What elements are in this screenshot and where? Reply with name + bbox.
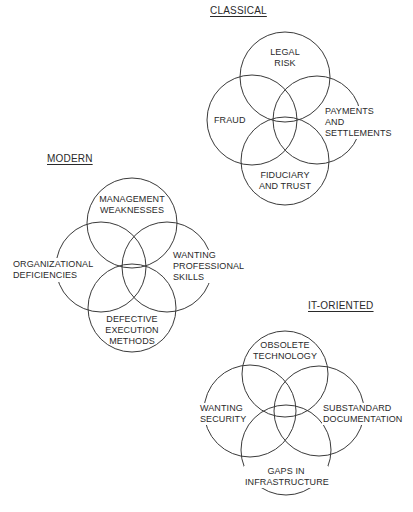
label-line: EXECUTION — [101, 325, 163, 336]
label-line: SUBSTANDARD — [323, 403, 402, 414]
label-management-weaknesses: MANAGEMENT WEAKNESSES — [97, 194, 167, 216]
label-line: METHODS — [101, 336, 163, 347]
label-line: OBSOLETE — [251, 340, 319, 351]
label-line: AND — [325, 117, 392, 128]
label-wanting-professional-skills: WANTING PROFESSIONAL SKILLS — [172, 250, 245, 283]
label-organizational-deficiencies: ORGANIZATIONAL DEFICIENCIES — [12, 258, 94, 282]
label-line: WEAKNESSES — [97, 205, 167, 216]
label-line: ORGANIZATIONAL — [13, 259, 93, 270]
label-line: FRAUD — [214, 115, 246, 126]
label-obsolete-technology: OBSOLETE TECHNOLOGY — [251, 340, 319, 362]
label-line: FIDUCIARY — [255, 170, 315, 181]
label-line: AND TRUST — [255, 181, 315, 192]
label-line: LEGAL — [262, 47, 308, 58]
label-gaps-in-infrastructure: GAPS IN INFRASTRUCTURE — [244, 466, 328, 488]
label-payments-and-settlements: PAYMENTS AND SETTLEMENTS — [324, 106, 393, 139]
label-line: DOCUMENTATION — [323, 414, 402, 425]
label-line: TECHNOLOGY — [251, 351, 319, 362]
label-defective-execution-methods: DEFECTIVE EXECUTION METHODS — [101, 314, 163, 347]
label-substandard-documentation: SUBSTANDARD DOCUMENTATION — [322, 403, 403, 425]
label-fiduciary-and-trust: FIDUCIARY AND TRUST — [255, 170, 315, 192]
label-line: PROFESSIONAL — [173, 261, 244, 272]
label-legal-risk: LEGAL RISK — [262, 47, 308, 69]
label-fraud: FRAUD — [214, 115, 246, 126]
label-line: INFRASTRUCTURE — [245, 477, 327, 488]
label-wanting-security: WANTING SECURITY — [199, 403, 247, 425]
modern-title: MODERN — [47, 153, 93, 165]
circle-legal-risk — [240, 32, 330, 122]
label-line: DEFECTIVE — [101, 314, 163, 325]
label-line: WANTING — [173, 250, 244, 261]
label-line: SETTLEMENTS — [325, 128, 392, 139]
it-oriented-title: IT-ORIENTED — [308, 300, 374, 312]
label-line: PAYMENTS — [325, 106, 392, 117]
label-line: GAPS IN — [245, 466, 327, 477]
label-line: WANTING — [200, 403, 246, 414]
label-line: SECURITY — [200, 414, 246, 425]
classical-title: CLASSICAL — [210, 5, 267, 17]
label-line: RISK — [262, 58, 308, 69]
label-line: SKILLS — [173, 272, 244, 283]
label-line: DEFICIENCIES — [13, 270, 93, 281]
label-line: MANAGEMENT — [97, 194, 167, 205]
circle-management-weaknesses — [87, 178, 177, 268]
